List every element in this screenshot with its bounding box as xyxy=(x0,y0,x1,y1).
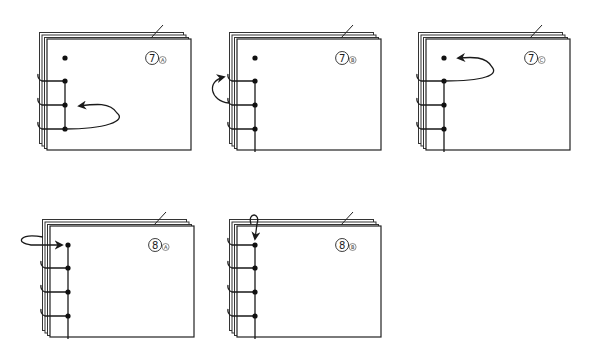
sewing-hole xyxy=(62,102,67,107)
panel-step-7c: 7C xyxy=(417,25,570,152)
binding-diagram-stage: 7A 7B 7C 8A 8B xyxy=(0,0,598,356)
panel-step-8b: 8B xyxy=(228,212,381,339)
substep-letter: A xyxy=(164,244,168,250)
sewing-hole xyxy=(252,289,257,294)
sewing-hole xyxy=(62,55,67,60)
sewing-hole xyxy=(252,126,257,131)
sewing-hole xyxy=(252,313,257,318)
sewing-hole xyxy=(252,265,257,270)
paper-sheet-front xyxy=(50,226,194,337)
sewing-hole xyxy=(252,242,257,247)
sewing-hole xyxy=(252,78,257,83)
paper-sheet-front xyxy=(426,39,570,150)
substep-letter: B xyxy=(351,244,355,250)
substep-letter: B xyxy=(351,57,355,63)
substep-letter: A xyxy=(161,57,165,63)
panel-step-8a: 8A xyxy=(21,212,194,339)
sewing-hole xyxy=(65,289,70,294)
sewing-hole xyxy=(65,313,70,318)
sewing-hole xyxy=(62,78,67,83)
direction-arrow xyxy=(212,77,229,103)
sewing-hole xyxy=(65,242,70,247)
sewing-hole xyxy=(252,102,257,107)
substep-letter: C xyxy=(540,57,544,63)
step-number: 8 xyxy=(152,240,158,251)
panel-step-7b: 7B xyxy=(212,25,381,152)
sewing-hole xyxy=(441,55,446,60)
sewing-hole xyxy=(252,55,257,60)
sewing-hole xyxy=(441,126,446,131)
step-number: 8 xyxy=(339,240,345,251)
sewing-hole xyxy=(65,265,70,270)
step-number: 7 xyxy=(339,53,345,64)
panel-step-7a: 7A xyxy=(38,25,191,150)
paper-sheet-front xyxy=(237,226,381,337)
step-number: 7 xyxy=(149,53,155,64)
step-number: 7 xyxy=(528,53,534,64)
paper-sheet-front xyxy=(237,39,381,150)
paper-sheet-front xyxy=(47,39,191,150)
sewing-hole xyxy=(441,102,446,107)
